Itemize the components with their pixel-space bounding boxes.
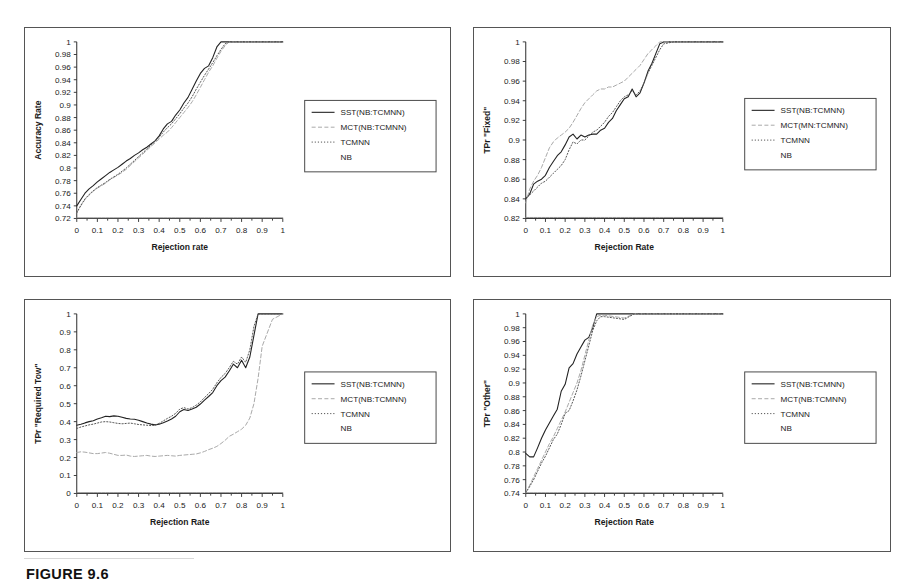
y-tick-label: 0.4 xyxy=(59,418,71,427)
y-tick-label: 0.96 xyxy=(504,77,520,86)
chart-panel-accuracy: 0.720.740.760.780.80.820.840.860.880.90.… xyxy=(24,27,451,277)
series-line xyxy=(526,314,723,493)
legend-label: TCMNN xyxy=(341,138,371,147)
legend-label: MCT(NB:TCMNN) xyxy=(781,395,847,404)
x-axis-title: Rejection Rate xyxy=(150,517,210,527)
axes xyxy=(77,42,283,219)
chart-svg-other: 0.740.760.780.80.820.840.860.880.90.920.… xyxy=(474,300,890,551)
legend: SST(NB:TCMNN)MCT(NB:TCMNN)TCMNNNB xyxy=(745,372,876,443)
x-tick-label: 0 xyxy=(523,501,528,510)
x-tick-label: 0.4 xyxy=(154,501,166,510)
legend-label: MCT(NB:TCMNN) xyxy=(341,123,407,132)
x-axis-title: Rejection Rate xyxy=(595,242,655,252)
legend-label: NB xyxy=(341,153,352,162)
y-tick-label: 0.92 xyxy=(504,365,520,374)
y-tick-label: 0.2 xyxy=(59,454,71,463)
chart-svg-accuracy: 0.720.740.760.780.80.820.840.860.880.90.… xyxy=(25,28,450,276)
y-tick-label: 0.78 xyxy=(55,177,71,186)
x-tick-label: 0.6 xyxy=(638,226,650,235)
y-tick-label: 0.8 xyxy=(508,448,520,457)
y-tick-label: 1 xyxy=(515,38,520,47)
x-tick-label: 0.6 xyxy=(638,501,650,510)
x-tick-label: 0.4 xyxy=(599,501,611,510)
x-tick-label: 0.1 xyxy=(92,226,104,235)
x-tick-label: 0.5 xyxy=(174,501,186,510)
series-line xyxy=(77,314,283,425)
x-tick-label: 0.8 xyxy=(678,226,690,235)
x-tick-label: 0 xyxy=(74,226,79,235)
x-tick-label: 0.1 xyxy=(540,501,552,510)
x-tick-label: 0.2 xyxy=(112,226,124,235)
series-line xyxy=(77,42,283,213)
x-tick-label: 0.2 xyxy=(112,501,124,510)
x-tick-label: 0.9 xyxy=(257,226,269,235)
y-tick-label: 0.74 xyxy=(55,202,71,211)
x-tick-label: 0.3 xyxy=(133,226,145,235)
x-tick-label: 0.9 xyxy=(257,501,269,510)
y-tick-label: 1 xyxy=(515,310,520,319)
y-tick-label: 0.6 xyxy=(59,382,71,391)
y-tick-label: 0.84 xyxy=(55,139,71,148)
x-ticks: 00.10.20.30.40.50.60.70.80.91 xyxy=(523,218,725,235)
y-tick-label: 0.82 xyxy=(504,214,520,223)
y-tick-label: 0.92 xyxy=(55,88,71,97)
x-tick-label: 1 xyxy=(721,501,726,510)
legend-label: TCMNN xyxy=(781,136,811,145)
y-tick-label: 0.86 xyxy=(55,126,71,135)
y-tick-label: 0.96 xyxy=(504,338,520,347)
x-tick-label: 0.9 xyxy=(697,501,709,510)
y-tick-label: 0.92 xyxy=(504,116,520,125)
x-tick-label: 0.8 xyxy=(236,501,248,510)
legend-label: MCT(NB:TCMNN) xyxy=(341,395,407,404)
y-ticks: 00.10.20.30.40.50.60.70.80.91 xyxy=(59,310,76,499)
x-tick-label: 0.5 xyxy=(174,226,186,235)
x-axis-title: Rejection rate xyxy=(152,242,209,252)
x-tick-label: 0.4 xyxy=(599,226,611,235)
caption-rule xyxy=(24,558,194,559)
legend-label: SST(NB:TCMNN) xyxy=(781,106,845,115)
y-tick-label: 0.78 xyxy=(504,462,520,471)
chart-svg-required-tow: 00.10.20.30.40.50.60.70.80.9100.10.20.30… xyxy=(25,300,450,551)
y-tick-label: 0.9 xyxy=(59,101,71,110)
y-tick-label: 0.98 xyxy=(55,50,71,59)
y-ticks: 0.820.840.860.880.90.920.940.960.981 xyxy=(504,38,526,224)
legend: SST(NB:TCMNN)MCT(NB:TCMNN)TCMNNNB xyxy=(305,100,436,171)
legend-label: SST(NB:TCMNN) xyxy=(341,380,405,389)
x-ticks: 00.10.20.30.40.50.60.70.80.91 xyxy=(74,218,285,235)
y-tick-label: 0.72 xyxy=(55,214,71,223)
x-tick-label: 0.7 xyxy=(215,226,227,235)
legend-label: MCT(MN:TCMNN) xyxy=(781,121,849,130)
y-tick-label: 0.84 xyxy=(504,195,520,204)
y-tick-label: 0.84 xyxy=(504,420,520,429)
x-tick-label: 0.8 xyxy=(678,501,690,510)
chart-svg-fixed: 0.820.840.860.880.90.920.940.960.98100.1… xyxy=(474,28,890,276)
y-tick-label: 1 xyxy=(66,38,71,47)
x-tick-label: 0.7 xyxy=(658,501,670,510)
y-tick-label: 0.98 xyxy=(504,324,520,333)
y-tick-label: 0.5 xyxy=(59,400,71,409)
series-group xyxy=(526,314,723,493)
x-ticks: 00.10.20.30.40.50.60.70.80.91 xyxy=(523,493,725,510)
x-tick-label: 0.4 xyxy=(154,226,166,235)
y-tick-label: 0.94 xyxy=(504,97,520,106)
chart-panel-other: 0.740.760.780.80.820.840.860.880.90.920.… xyxy=(473,299,891,552)
y-tick-label: 0.9 xyxy=(508,136,520,145)
y-tick-label: 0.76 xyxy=(504,476,520,485)
y-tick-label: 0.74 xyxy=(504,489,520,498)
y-axis-title: TPr "Other" xyxy=(482,380,492,427)
y-tick-label: 0.98 xyxy=(504,57,520,66)
y-tick-label: 0.94 xyxy=(504,351,520,360)
chart-panel-fixed: 0.820.840.860.880.90.920.940.960.98100.1… xyxy=(473,27,891,277)
x-tick-label: 0.6 xyxy=(195,501,207,510)
series-line xyxy=(526,42,723,203)
series-line xyxy=(526,314,723,493)
series-group xyxy=(526,42,723,218)
y-tick-label: 0.9 xyxy=(508,379,520,388)
y-tick-label: 0.3 xyxy=(59,436,71,445)
x-tick-label: 0.6 xyxy=(195,226,207,235)
series-group xyxy=(77,314,283,493)
x-axis-title: Rejection Rate xyxy=(595,517,655,527)
axes xyxy=(526,314,723,494)
x-tick-label: 0.5 xyxy=(619,226,631,235)
series-line xyxy=(526,42,723,199)
